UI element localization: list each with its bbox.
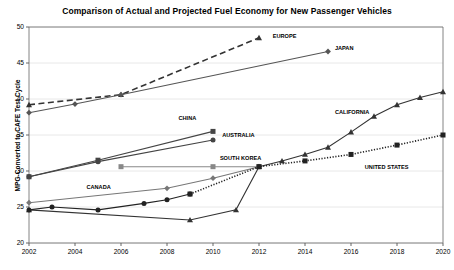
series-california-marker — [440, 89, 446, 94]
series-europe-marker — [256, 35, 262, 40]
series-canada-marker — [26, 200, 32, 206]
series-label-china: CHINA — [179, 115, 197, 121]
series-line-canada — [29, 167, 259, 203]
series-california-marker — [233, 207, 239, 212]
series-united-states-projected-marker — [188, 192, 193, 197]
series-japan-marker — [26, 110, 32, 116]
series-united-states-marker — [27, 207, 32, 212]
series-label-europe: EUROPE — [273, 33, 297, 39]
series-united-states-marker — [50, 205, 55, 210]
series-south-korea-marker — [211, 164, 216, 169]
series-california-marker — [371, 113, 377, 118]
series-united-states-projected-marker — [441, 133, 446, 138]
series-australia-marker — [27, 174, 32, 179]
series-label-japan: JAPAN — [335, 45, 354, 51]
series-australia-marker — [96, 159, 101, 164]
series-united-states-marker — [165, 197, 170, 202]
series-japan-marker — [72, 101, 78, 107]
series-japan-marker — [325, 49, 331, 55]
series-united-states-projected-marker — [349, 152, 354, 157]
series-label-california: CALIFORNIA — [335, 109, 370, 115]
series-united-states-projected-marker — [395, 143, 400, 148]
series-california-marker — [325, 144, 331, 149]
series-label-south-korea: SOUTH KOREA — [220, 155, 261, 161]
series-line-europe — [29, 38, 259, 105]
series-label-australia: AUSTRALIA — [222, 132, 254, 138]
series-united-states-marker — [142, 201, 147, 206]
series-australia-marker — [211, 138, 216, 143]
series-china-marker — [211, 129, 216, 134]
series-label-canada: CANADA — [87, 184, 111, 190]
series-label-united-states: UNITED STATES — [365, 164, 409, 170]
series-line-china — [29, 131, 213, 176]
fuel-economy-chart: Comparison of Actual and Projected Fuel … — [0, 0, 454, 270]
series-canada-marker — [164, 185, 170, 191]
series-united-states-projected-marker — [303, 158, 308, 163]
series-california-marker — [348, 129, 354, 134]
series-canada-marker — [210, 175, 216, 181]
series-united-states-projected-marker — [257, 164, 262, 169]
series-south-korea-marker — [119, 164, 124, 169]
series-united-states-marker — [96, 207, 101, 212]
